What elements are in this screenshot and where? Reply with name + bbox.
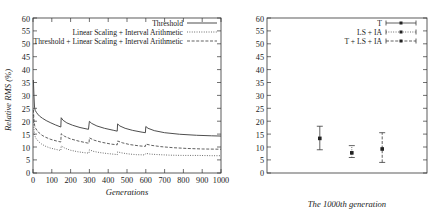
x-tick-label: 600 bbox=[140, 176, 152, 185]
left-y-tick-labels: 60 55 50 45 40 35 30 25 20 15 10 5 0 bbox=[22, 15, 30, 179]
x-tick-label: 200 bbox=[64, 176, 76, 185]
y-tick-label: 0 bbox=[260, 169, 264, 178]
y-tick-label: 10 bbox=[22, 144, 30, 153]
legend-label-ls-ia: LS + IA bbox=[357, 28, 382, 37]
y-tick-label: 30 bbox=[22, 92, 30, 101]
legend-swatch-t bbox=[386, 21, 416, 26]
y-tick-label: 55 bbox=[256, 27, 264, 36]
left-chart-svg: Relative RMS (%) 60 55 50 45 40 35 30 25… bbox=[0, 0, 240, 222]
y-tick-label: 60 bbox=[22, 15, 30, 24]
legend-label-t-ls-ia: Threshold + Linear Scaling + Interval Ar… bbox=[34, 37, 184, 46]
legend-label-threshold: Threshold bbox=[152, 19, 183, 28]
y-tick-label: 50 bbox=[22, 40, 30, 49]
y-tick-label: 60 bbox=[256, 15, 264, 24]
y-tick-label: 40 bbox=[256, 66, 264, 75]
errorbar-t bbox=[317, 126, 323, 150]
y-tick-label: 15 bbox=[22, 131, 30, 140]
y-tick-label: 45 bbox=[256, 53, 264, 62]
left-x-tick-labels: 0 100 200 300 400 500 600 700 800 900 10… bbox=[31, 176, 229, 185]
x-tick-label: 400 bbox=[102, 176, 114, 185]
left-x-axis-label: Generations bbox=[106, 187, 149, 197]
y-tick-label: 15 bbox=[256, 131, 264, 140]
left-y-axis-label: Relative RMS (%) bbox=[3, 69, 13, 132]
y-tick-label: 40 bbox=[22, 66, 30, 75]
x-tick-label: 500 bbox=[121, 176, 133, 185]
legend-label-t: T bbox=[377, 19, 382, 28]
y-tick-label: 55 bbox=[22, 27, 30, 36]
y-tick-label: 25 bbox=[22, 105, 30, 114]
figure-root: Relative RMS (%) 60 55 50 45 40 35 30 25… bbox=[0, 0, 435, 222]
x-tick-label: 800 bbox=[177, 176, 189, 185]
y-tick-label: 45 bbox=[22, 53, 30, 62]
right-legend: T LS + IA T + LS + IA bbox=[344, 19, 416, 46]
x-tick-label: 900 bbox=[196, 176, 208, 185]
y-tick-label: 20 bbox=[256, 118, 264, 127]
y-tick-label: 5 bbox=[260, 156, 264, 165]
y-tick-label: 20 bbox=[22, 118, 30, 127]
x-tick-label: 700 bbox=[158, 176, 170, 185]
x-tick-label: 0 bbox=[31, 176, 35, 185]
y-tick-label: 25 bbox=[256, 105, 264, 114]
right-x-axis-label: The 1000th generation bbox=[308, 199, 386, 209]
errorbar-t-ls-ia bbox=[379, 133, 385, 163]
series-line-threshold bbox=[33, 80, 221, 136]
y-tick-label: 35 bbox=[22, 79, 30, 88]
y-tick-label: 50 bbox=[256, 40, 264, 49]
data-point-marker bbox=[380, 147, 384, 151]
left-series-group bbox=[33, 80, 221, 156]
y-tick-label: 0 bbox=[26, 169, 30, 178]
legend-label-t-ls-ia: T + LS + IA bbox=[344, 37, 382, 46]
y-tick-label: 30 bbox=[256, 92, 264, 101]
legend-swatch-ls-ia bbox=[386, 30, 416, 35]
right-y-tick-labels: 60 55 50 45 40 35 30 25 20 15 10 5 0 bbox=[256, 15, 264, 179]
errorbar-ls-ia bbox=[349, 146, 355, 158]
legend-swatch-t-ls-ia bbox=[386, 39, 416, 44]
y-tick-label: 5 bbox=[26, 156, 30, 165]
left-legend: Threshold Linear Scaling + Interval Arit… bbox=[34, 19, 217, 46]
right-chart-panel: 60 55 50 45 40 35 30 25 20 15 10 5 0 bbox=[240, 0, 435, 222]
x-tick-label: 300 bbox=[83, 176, 95, 185]
x-tick-label: 1000 bbox=[213, 176, 229, 185]
data-point-marker bbox=[318, 137, 322, 141]
left-chart-panel: Relative RMS (%) 60 55 50 45 40 35 30 25… bbox=[0, 0, 240, 222]
x-tick-label: 100 bbox=[46, 176, 58, 185]
y-tick-label: 35 bbox=[256, 79, 264, 88]
legend-label-ls-ia: Linear Scaling + Interval Arithmetic bbox=[72, 28, 183, 37]
y-tick-label: 10 bbox=[256, 144, 264, 153]
series-line-t-ls-ia bbox=[33, 110, 221, 150]
right-chart-svg: 60 55 50 45 40 35 30 25 20 15 10 5 0 bbox=[240, 0, 435, 222]
right-errorbar-group bbox=[317, 126, 385, 162]
data-point-marker bbox=[350, 151, 354, 155]
